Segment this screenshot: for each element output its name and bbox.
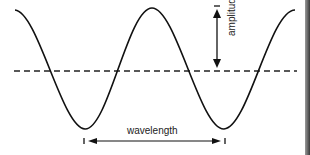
edge-strip	[305, 0, 310, 155]
wavelength-label: wavelength	[127, 125, 178, 136]
wavelength-arrow	[84, 138, 225, 144]
amplitude-label: amplitude	[226, 0, 237, 36]
amplitude-arrow	[213, 6, 221, 68]
wave-curve	[15, 8, 295, 129]
wave-diagram: amplitude wavelength	[0, 0, 310, 155]
